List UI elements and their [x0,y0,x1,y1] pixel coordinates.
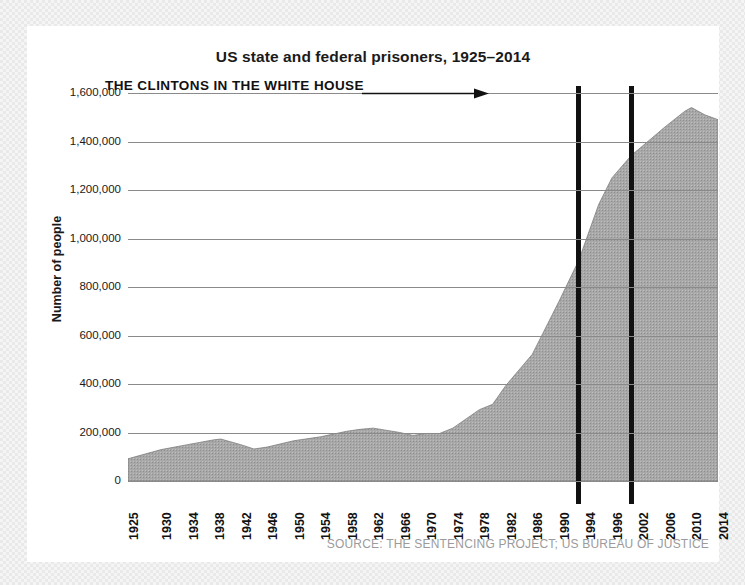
vertical-marker-2001 [629,86,634,504]
x-tick-label: 1958 [346,512,360,540]
gridline [128,190,718,191]
x-tick-label: 1986 [531,512,545,540]
y-tick-label: 1,400,000 [29,135,121,147]
x-tick-label: 1925 [127,512,141,540]
annotation-clintons-label: THE CLINTONS IN THE WHITE HOUSE [105,78,364,93]
x-tick-label: 1996 [611,512,625,540]
chart-title: US state and federal prisoners, 1925–201… [27,48,719,66]
y-tick-label: 0 [29,474,121,486]
plot-area: 1,600,0001,400,0001,200,0001,000,000800,… [128,93,718,481]
gridline [128,336,718,337]
chart-card: US state and federal prisoners, 1925–201… [27,26,719,562]
x-tick-label: 1994 [584,512,598,540]
screenshot-canvas: US state and federal prisoners, 1925–201… [0,0,745,585]
x-tick-label: 1966 [399,512,413,540]
x-tick-label: 1962 [372,512,386,540]
y-tick-label: 1,200,000 [29,183,121,195]
x-tick-label: 1942 [240,512,254,540]
vertical-marker-1993 [576,86,581,504]
y-tick-label: 200,000 [29,426,121,438]
x-tick-label: 1950 [293,512,307,540]
gridline [128,481,718,482]
x-tick-label: 2002 [637,512,651,540]
gridline [128,287,718,288]
x-tick-label: 2006 [664,512,678,540]
y-tick-label: 800,000 [29,280,121,292]
x-tick-label: 1974 [452,512,466,540]
x-tick-label: 1930 [160,512,174,540]
gridline [128,433,718,434]
x-tick-label: 1978 [478,512,492,540]
x-tick-label: 1990 [558,512,572,540]
y-tick-label: 1,000,000 [29,232,121,244]
gridline [128,239,718,240]
x-tick-label: 1954 [319,512,333,540]
gridline [128,142,718,143]
gridline [128,384,718,385]
x-tick-label: 2010 [690,512,704,540]
y-tick-label: 600,000 [29,329,121,341]
x-tick-label: 1938 [213,512,227,540]
x-tick-label: 1946 [266,512,280,540]
annotation-arrow-icon [362,88,490,99]
y-axis-title: Number of people [50,199,64,339]
source-note: SOURCE: THE SENTENCING PROJECT; US BUREA… [327,537,709,551]
x-tick-label: 1970 [425,512,439,540]
x-tick-label: 1982 [505,512,519,540]
x-tick-label: 2014 [717,512,731,540]
y-tick-label: 400,000 [29,377,121,389]
x-tick-label: 1934 [187,512,201,540]
